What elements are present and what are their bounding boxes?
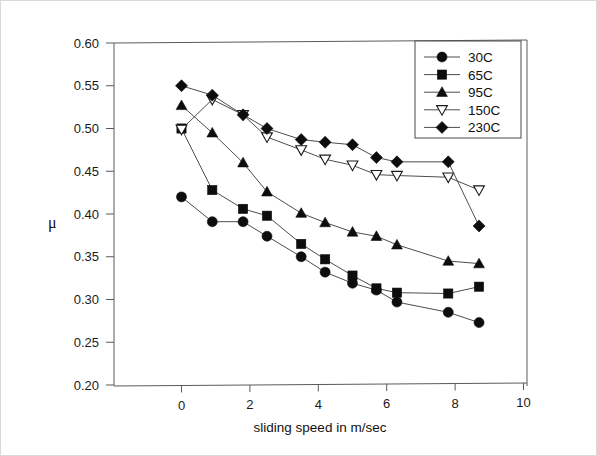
- y-tick-label: 0.40: [74, 207, 99, 222]
- data-point-30C: [177, 192, 187, 202]
- x-tick-label: 0: [178, 398, 185, 413]
- data-point-95C: [296, 208, 307, 218]
- legend-marker-30C: [437, 52, 447, 62]
- x-tick-group: 0246810: [178, 383, 531, 412]
- y-tick-label: 0.45: [74, 164, 99, 179]
- data-point-230C: [473, 220, 485, 232]
- data-point-95C: [176, 100, 187, 110]
- figure-canvas: 0.200.250.300.350.400.450.500.550.60 μ 0…: [0, 0, 597, 456]
- data-point-150C: [443, 173, 454, 183]
- data-point-30C: [392, 297, 402, 307]
- series-line-65C: [182, 129, 480, 294]
- friction-vs-speed-chart: 0.200.250.300.350.400.450.500.550.60 μ 0…: [0, 0, 597, 456]
- data-point-95C: [443, 256, 454, 266]
- x-tick-label: 8: [451, 396, 458, 411]
- data-point-230C: [176, 80, 188, 92]
- data-point-230C: [319, 136, 331, 148]
- data-point-230C: [442, 156, 454, 168]
- data-point-30C: [443, 307, 453, 317]
- legend-label-230C: 230C: [468, 120, 501, 135]
- data-point-150C: [347, 161, 358, 171]
- data-point-95C: [392, 239, 403, 249]
- legend-label-150C: 150C: [468, 103, 501, 118]
- y-tick-label: 0.60: [74, 36, 99, 51]
- legend-marker-65C: [437, 70, 446, 79]
- chart-legend: 30C65C95C150C230C: [415, 41, 521, 138]
- data-point-95C: [347, 227, 358, 237]
- data-point-150C: [296, 146, 307, 156]
- y-axis: 0.200.250.300.350.400.450.500.550.60 μ: [48, 36, 114, 393]
- legend-label-65C: 65C: [468, 68, 493, 83]
- data-point-95C: [320, 217, 331, 227]
- data-point-65C: [372, 284, 381, 293]
- data-point-65C: [208, 185, 217, 194]
- data-point-230C: [206, 89, 218, 101]
- data-point-65C: [348, 271, 357, 280]
- series-line-30C: [182, 197, 480, 323]
- data-point-30C: [296, 252, 306, 262]
- legend-label-30C: 30C: [468, 50, 493, 65]
- data-point-150C: [474, 186, 485, 196]
- legend-label-95C: 95C: [468, 85, 493, 100]
- data-point-65C: [297, 239, 306, 248]
- data-point-30C: [320, 267, 330, 277]
- x-axis-title: sliding speed in m/sec: [254, 420, 387, 435]
- data-point-230C: [347, 139, 359, 151]
- data-point-230C: [391, 156, 403, 168]
- data-point-230C: [370, 152, 382, 164]
- data-point-65C: [474, 282, 483, 291]
- data-point-30C: [262, 231, 272, 241]
- data-point-65C: [238, 204, 247, 213]
- y-tick-label: 0.30: [74, 292, 99, 307]
- y-tick-label: 0.50: [74, 121, 99, 136]
- y-tick-label: 0.55: [74, 78, 99, 93]
- x-tick-label: 10: [516, 395, 530, 410]
- data-point-65C: [321, 255, 330, 264]
- data-point-30C: [207, 217, 217, 227]
- x-tick-label: 4: [315, 397, 322, 412]
- x-tick-label: 2: [246, 397, 253, 412]
- data-point-230C: [295, 134, 307, 146]
- data-point-65C: [392, 288, 401, 297]
- x-tick-label: 6: [383, 396, 390, 411]
- y-axis-title: μ: [48, 214, 57, 232]
- series-30C: [177, 192, 485, 328]
- data-point-65C: [444, 289, 453, 298]
- y-tick-label: 0.25: [74, 335, 99, 350]
- y-tick-label: 0.35: [74, 249, 99, 264]
- data-point-30C: [238, 217, 248, 227]
- x-axis: 0246810 sliding speed in m/sec: [114, 383, 531, 435]
- y-tick-group: 0.200.250.300.350.400.450.500.550.60: [74, 36, 114, 393]
- data-point-65C: [262, 211, 271, 220]
- y-tick-label: 0.20: [74, 378, 99, 393]
- data-point-30C: [474, 318, 484, 328]
